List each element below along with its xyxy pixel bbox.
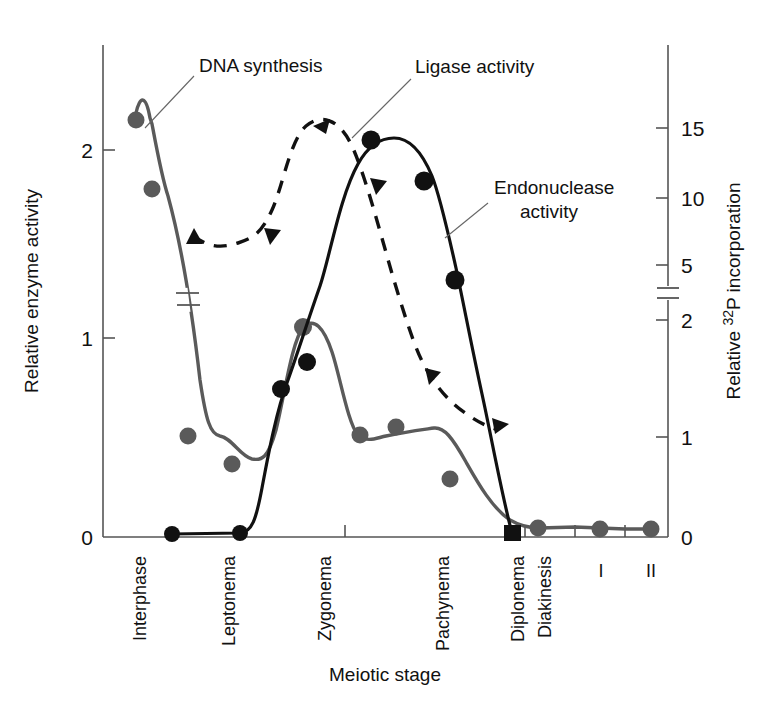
endonuclease-activity-markers xyxy=(164,131,521,543)
data-point-marker xyxy=(530,520,547,537)
data-point-marker xyxy=(164,526,180,542)
dna-synthesis-label: DNA synthesis xyxy=(199,55,323,76)
data-point-marker xyxy=(186,228,203,244)
data-point-marker xyxy=(224,456,241,473)
data-point-marker xyxy=(128,112,145,129)
data-point-marker xyxy=(504,525,521,541)
data-point-marker xyxy=(388,419,405,436)
data-point-marker xyxy=(180,428,197,445)
annotation-ligase-activity: Ligase activity xyxy=(352,56,535,138)
data-point-marker xyxy=(232,525,248,541)
x-label-zygonema: Zygonema xyxy=(315,555,335,641)
data-point-marker xyxy=(370,178,387,195)
x-label-interphase: Interphase xyxy=(130,556,150,641)
series-dna-synthesis xyxy=(128,100,660,537)
data-point-marker xyxy=(144,181,161,198)
left-ticklabel-0: 0 xyxy=(81,526,93,549)
dna-synthesis-leader-line xyxy=(145,76,194,128)
right-axis-title-superscript: 32 xyxy=(720,310,736,326)
left-axis-ticks: 2 1 0 xyxy=(81,139,115,549)
ligase-activity-leader-line xyxy=(352,79,411,138)
meiosis-enzyme-activity-chart: 2 1 0 Relative enzyme activity 15 10 5 2… xyxy=(0,0,771,716)
endonuclease-activity-label-line1: Endonuclease xyxy=(494,177,614,198)
data-point-marker xyxy=(446,271,465,290)
dna-synthesis-curve xyxy=(136,100,651,529)
x-label-diakinesis: Diakinesis xyxy=(535,556,555,638)
annotation-endonuclease-activity: Endonuclease activity xyxy=(445,177,614,238)
endonuclease-activity-leader-line xyxy=(445,203,488,238)
x-label-diplonema: Diplonema xyxy=(508,555,528,642)
endonuclease-activity-curve xyxy=(172,138,512,534)
data-point-marker xyxy=(313,119,330,134)
x-label-leptonema: Leptonema xyxy=(219,555,239,646)
right-ticklabel-0: 0 xyxy=(681,526,693,549)
data-point-marker xyxy=(298,353,316,371)
x-label-ii: II xyxy=(646,561,656,581)
right-ticklabel-10: 10 xyxy=(681,187,704,210)
series-endonuclease-activity xyxy=(164,131,521,543)
dna-synthesis-markers xyxy=(128,112,660,538)
chart-svg: 2 1 0 Relative enzyme activity 15 10 5 2… xyxy=(0,0,771,716)
endonuclease-activity-label-line2: activity xyxy=(520,201,579,222)
annotation-dna-synthesis: DNA synthesis xyxy=(145,55,323,128)
left-ticklabel-1: 1 xyxy=(81,327,93,350)
ligase-activity-label: Ligase activity xyxy=(415,56,535,77)
data-point-marker xyxy=(442,471,459,488)
data-point-marker xyxy=(272,380,290,398)
left-axis-title: Relative enzyme activity xyxy=(21,189,42,393)
right-axis-ticks: 15 10 5 2 1 0 xyxy=(656,117,704,549)
data-point-marker xyxy=(592,521,609,538)
x-axis-category-labels: Interphase Leptonema Zygonema Pachynema … xyxy=(130,555,656,651)
data-point-marker xyxy=(425,368,441,385)
data-point-marker xyxy=(352,427,369,444)
data-point-marker xyxy=(643,521,660,538)
data-point-marker xyxy=(362,131,381,150)
right-axis-title-prefix: Relative xyxy=(723,326,744,400)
x-axis-title: Meiotic stage xyxy=(329,664,441,685)
x-label-i: I xyxy=(598,561,603,581)
left-ticklabel-2: 2 xyxy=(81,139,93,162)
right-axis-title: Relative 32P incorporation xyxy=(720,183,744,400)
right-ticklabel-1: 1 xyxy=(681,426,693,449)
right-axis-title-suffix: P incorporation xyxy=(723,183,744,310)
right-ticklabel-5: 5 xyxy=(681,254,693,277)
data-point-marker xyxy=(264,228,281,245)
right-axis-break-marker xyxy=(657,286,679,300)
data-point-marker xyxy=(415,172,434,191)
data-point-marker xyxy=(492,418,509,434)
right-ticklabel-15: 15 xyxy=(681,117,704,140)
x-label-pachynema: Pachynema xyxy=(433,555,453,651)
right-ticklabel-2: 2 xyxy=(681,309,693,332)
